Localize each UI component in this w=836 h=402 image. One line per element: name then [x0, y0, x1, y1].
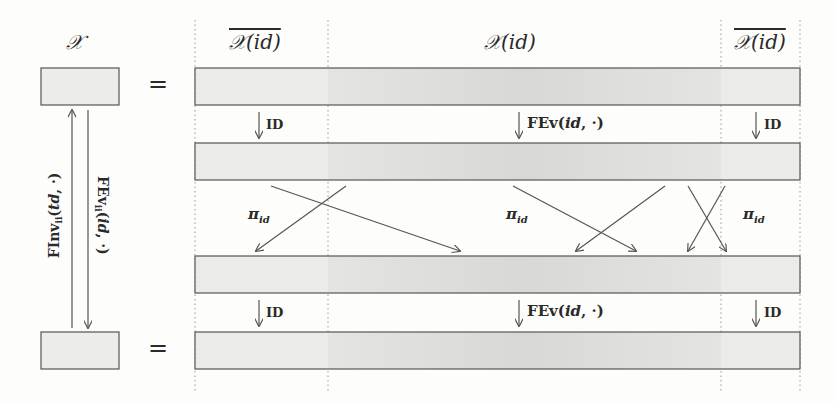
fev-ii-label: FEvii(id, ·)	[93, 155, 112, 275]
arrows-row1	[259, 112, 756, 138]
left-set-label: 𝒳	[66, 30, 83, 54]
column-header-right: 𝒳(id)	[734, 30, 786, 54]
id-label-right-2: ID	[764, 305, 781, 320]
finv-label: FInvii(td, ·)	[46, 155, 65, 275]
fev-label-mid-2: FEv(id, ·)	[527, 302, 604, 320]
diagram-canvas	[0, 0, 836, 402]
left-box-top	[41, 68, 119, 105]
pi-label-right: πid	[743, 205, 765, 225]
column-header-left: 𝒳(id)	[229, 30, 281, 54]
perm-arrow-4	[576, 186, 665, 251]
bar-row-4	[195, 332, 800, 369]
id-label-left-1: ID	[266, 117, 283, 132]
bar-row-1	[195, 68, 800, 105]
pi-label-middle: πid	[506, 205, 528, 225]
bar-row-2	[195, 143, 800, 180]
bar-row-3	[195, 256, 800, 293]
left-box-bottom	[41, 332, 119, 369]
equals-top: =	[148, 70, 168, 98]
id-label-right-1: ID	[764, 117, 781, 132]
perm-arrow-1	[271, 186, 460, 251]
column-header-middle: 𝒳(id)	[484, 30, 536, 54]
perm-arrow-3	[513, 186, 636, 251]
arrows-row3	[259, 300, 756, 326]
pi-label-left: πid	[248, 205, 270, 225]
permutation-arrows	[256, 186, 726, 251]
equals-bottom: =	[148, 334, 168, 362]
id-label-left-2: ID	[266, 305, 283, 320]
fev-label-mid-1: FEv(id, ·)	[527, 114, 604, 132]
